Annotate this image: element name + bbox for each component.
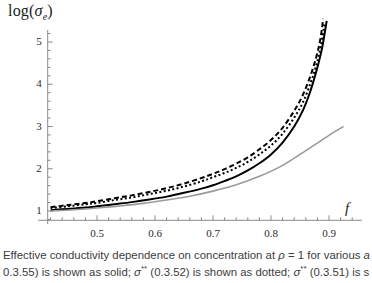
y-tick-label: 3: [26, 120, 42, 132]
series-dotted-middle: [51, 24, 325, 208]
chart-figure: log(σe) f 0.50.60.70.80.912345: [0, 0, 372, 246]
y-tick-label: 1: [26, 204, 42, 216]
caption-line2-pre: 0.3.55) is shown as solid;: [3, 266, 134, 278]
sigma-symbol: σ: [35, 2, 43, 19]
y-tick-label: 5: [26, 35, 42, 47]
caption-line1-mid: = 1 for various: [285, 249, 364, 261]
x-tick-label: 0.7: [199, 227, 227, 239]
y-tick-label: 4: [26, 77, 42, 89]
caption-line1-pre: Effective conductivity dependence on con…: [3, 249, 278, 261]
caption-line2-mid2: (0.3.51) is s: [307, 266, 370, 278]
data-series: [51, 19, 344, 211]
plot-canvas: [0, 0, 372, 246]
caption-line2-mid1: (0.3.52) is shown as dotted;: [147, 266, 293, 278]
x-tick-label: 0.5: [83, 227, 111, 239]
x-tick-label: 0.8: [257, 227, 285, 239]
caption-sigma-1: σ: [134, 266, 141, 278]
x-tick-label: 0.6: [141, 227, 169, 239]
y-axis-label-text: log(: [8, 2, 35, 19]
x-axis-label: f: [345, 200, 349, 217]
series-solid-gray: [51, 127, 344, 212]
figure-caption: Effective conductivity dependence on con…: [0, 248, 372, 283]
figure-panel: log(σe) f 0.50.60.70.80.912345 Effective…: [0, 0, 372, 283]
x-tick-label: 0.9: [315, 227, 343, 239]
caption-line-2: 0.3.55) is shown as solid; σ** (0.3.52) …: [0, 262, 372, 279]
y-axis-label: log(σe): [8, 2, 53, 26]
y-axis-label-close: ): [47, 2, 53, 19]
caption-line1-tail: a: [364, 249, 370, 261]
series-dashed-upper: [51, 19, 324, 207]
caption-line-1: Effective conductivity dependence on con…: [0, 248, 372, 262]
y-tick-label: 2: [26, 162, 42, 174]
